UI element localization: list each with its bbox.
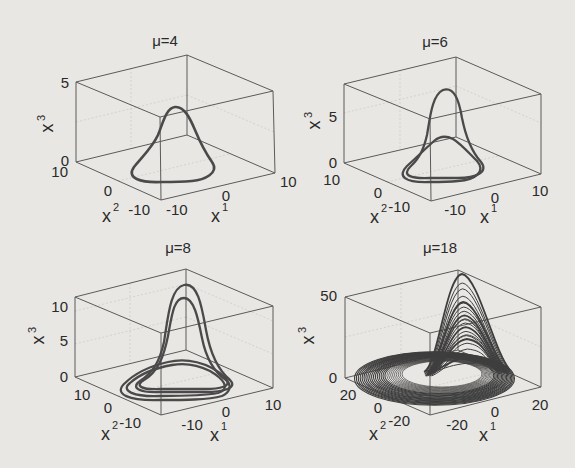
y-tick: 10 — [323, 171, 340, 188]
panel-mu-18: μ=18 50 0 20 0 -20 -20 0 20 x 3 x 2 — [296, 239, 548, 445]
y-tick: 0 — [374, 399, 382, 416]
svg-text:1: 1 — [222, 201, 228, 213]
y-tick: -10 — [128, 201, 150, 218]
svg-text:x: x — [211, 206, 220, 226]
x-tick: 10 — [265, 396, 282, 413]
x-tick: 0 — [491, 403, 499, 420]
y-tick: 10 — [51, 163, 68, 180]
grid-lines — [75, 283, 273, 396]
y-axis-label: x 2 — [370, 202, 387, 227]
grid-lines — [344, 70, 541, 182]
panel-mu-8: μ=8 10 5 0 10 0 -10 -10 0 10 x — [26, 239, 281, 445]
x-axis-label: x 1 — [210, 420, 227, 445]
panel-mu-6: μ=6 5 0 10 0 -10 -10 0 10 x 3 x — [302, 33, 548, 227]
z-tick: 0 — [329, 369, 337, 386]
svg-text:2: 2 — [113, 201, 119, 213]
x-tick: 10 — [532, 182, 549, 199]
svg-text:x: x — [101, 424, 110, 444]
z-tick: 5 — [60, 332, 68, 349]
x-tick: -10 — [166, 201, 188, 218]
svg-text:x: x — [210, 425, 219, 445]
y-axis-label: x 2 — [369, 419, 386, 444]
z-tick: 5 — [61, 74, 69, 91]
y-axis-label: x 2 — [101, 419, 118, 444]
svg-text:x: x — [480, 207, 489, 227]
svg-text:x: x — [28, 336, 48, 345]
svg-text:x: x — [304, 121, 324, 130]
x-axis-label: x 1 — [211, 201, 228, 226]
y-tick: 0 — [374, 184, 382, 201]
svg-text:2: 2 — [380, 419, 386, 431]
z-tick: 5 — [329, 108, 337, 125]
axes-box — [76, 55, 275, 200]
y-tick: -20 — [388, 412, 410, 429]
svg-text:x: x — [37, 124, 57, 133]
y-tick: 20 — [340, 386, 357, 403]
z-tick: 50 — [320, 287, 337, 304]
trajectory — [403, 89, 484, 182]
z-tick: 10 — [51, 298, 68, 315]
panel-title: μ=4 — [152, 32, 178, 49]
panel-title: μ=18 — [423, 239, 457, 256]
panel-mu-4: μ=4 5 0 10 0 -10 -10 0 10 x 3 x 2 — [35, 32, 297, 226]
axes-box — [344, 57, 541, 201]
svg-text:x: x — [369, 424, 378, 444]
svg-text:3: 3 — [35, 115, 47, 121]
trajectory — [121, 285, 232, 400]
y-axis-label: x 2 — [102, 201, 119, 226]
y-tick: -10 — [388, 198, 410, 215]
grid-lines — [76, 68, 274, 181]
z-axis-label: x 3 — [296, 327, 318, 345]
y-tick: 0 — [104, 399, 112, 416]
svg-text:3: 3 — [26, 327, 38, 333]
svg-text:1: 1 — [491, 202, 497, 214]
x-tick: 0 — [222, 403, 230, 420]
svg-text:3: 3 — [296, 327, 308, 333]
x-axis-label: x 1 — [479, 420, 496, 445]
x-tick: 10 — [280, 173, 297, 190]
svg-text:x: x — [479, 425, 488, 445]
panel-title: μ=8 — [165, 239, 191, 256]
svg-text:x: x — [370, 207, 379, 227]
panel-title: μ=6 — [422, 33, 448, 50]
z-tick: 0 — [329, 154, 337, 171]
x-tick: -10 — [181, 416, 203, 433]
x-tick: -20 — [446, 416, 468, 433]
x-axis-label: x 1 — [480, 202, 497, 227]
svg-text:x: x — [102, 206, 111, 226]
y-tick: -10 — [119, 414, 141, 431]
figure-canvas: μ=4 5 0 10 0 -10 -10 0 10 x 3 x 2 — [0, 0, 575, 468]
trajectory — [132, 107, 214, 182]
z-tick: 0 — [60, 368, 68, 385]
z-axis-label: x 3 — [302, 112, 324, 130]
z-axis-label: x 3 — [35, 115, 57, 133]
trajectory — [355, 274, 515, 405]
svg-text:2: 2 — [112, 419, 118, 431]
svg-text:2: 2 — [381, 202, 387, 214]
x-tick: 20 — [532, 396, 549, 413]
y-tick: 0 — [104, 182, 112, 199]
x-tick: -10 — [444, 201, 466, 218]
svg-text:x: x — [298, 336, 318, 345]
svg-text:1: 1 — [221, 420, 227, 432]
svg-text:3: 3 — [302, 112, 314, 118]
svg-text:1: 1 — [490, 420, 496, 432]
y-tick: 10 — [74, 386, 91, 403]
z-axis-label: x 3 — [26, 327, 48, 345]
